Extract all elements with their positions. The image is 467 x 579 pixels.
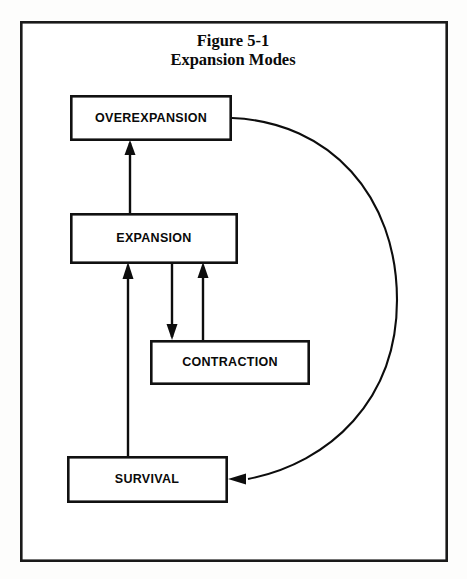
node-survival[interactable]: SURVIVAL <box>68 457 226 501</box>
node-expansion[interactable]: EXPANSION <box>71 214 236 262</box>
figure-title-line1: Figure 5-1 <box>197 31 270 50</box>
node-label-contraction: CONTRACTION <box>182 355 278 369</box>
node-label-overexpansion: OVEREXPANSION <box>95 111 207 125</box>
node-overexpansion[interactable]: OVEREXPANSION <box>71 96 230 139</box>
expansion-modes-diagram: Figure 5-1 Expansion Modes <box>0 0 467 579</box>
node-label-survival: SURVIVAL <box>115 472 180 486</box>
figure-title-line2: Expansion Modes <box>170 50 296 69</box>
node-label-expansion: EXPANSION <box>116 231 191 245</box>
node-contraction[interactable]: CONTRACTION <box>151 341 308 383</box>
figure-container: Figure 5-1 Expansion Modes <box>0 0 467 579</box>
